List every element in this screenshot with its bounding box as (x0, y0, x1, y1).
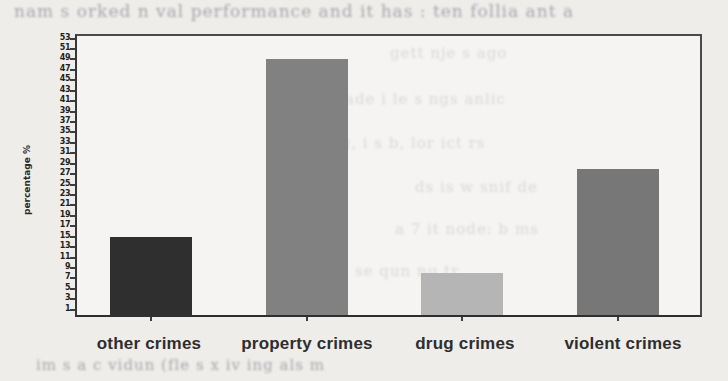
y-tick-mark (70, 298, 75, 300)
x-tick-mark (617, 317, 619, 321)
y-tick-mark (70, 111, 75, 113)
y-tick-mark (70, 163, 75, 165)
y-tick-mark (70, 48, 75, 50)
x-tick-mark (150, 317, 152, 321)
y-tick-mark (70, 236, 75, 238)
plot-area (75, 34, 702, 317)
scanned-book-page: nam s orked n val performance and it has… (0, 0, 728, 381)
y-tick-label: 29 (60, 159, 70, 167)
y-tick-label: 25 (60, 180, 70, 188)
y-tick-mark (70, 38, 75, 40)
y-tick-mark (70, 79, 75, 81)
y-tick-mark (70, 215, 75, 217)
y-tick-label: 21 (60, 200, 70, 208)
y-tick-label: 43 (60, 86, 70, 94)
y-tick-mark (70, 184, 75, 186)
x-category-label: property crimes (228, 334, 386, 360)
y-tick-label: 13 (60, 242, 70, 250)
x-category-label: violent crimes (544, 334, 702, 360)
y-tick-label: 51 (60, 44, 70, 52)
y-tick-mark (70, 267, 75, 269)
y-tick-label: 35 (60, 127, 70, 135)
y-tick-label: 33 (60, 138, 70, 146)
y-tick-label: 45 (60, 75, 70, 83)
x-tick-mark (461, 317, 463, 321)
y-tick-label: 41 (60, 96, 70, 104)
y-tick-label: 47 (60, 65, 70, 73)
y-tick-label: 49 (60, 54, 70, 62)
x-axis-category-labels: other crimesproperty crimesdrug crimesvi… (70, 334, 702, 360)
y-tick-mark (70, 257, 75, 259)
y-tick-label: 37 (60, 117, 70, 125)
y-tick-mark (70, 225, 75, 227)
y-tick-mark (70, 194, 75, 196)
y-tick-label: 11 (60, 253, 70, 261)
y-axis-tick-labels: 1357911131517192123252729313335373941434… (38, 34, 72, 317)
bar-drug-crimes (421, 273, 503, 315)
y-tick-mark (70, 121, 75, 123)
x-category-label: other crimes (70, 334, 228, 360)
y-tick-mark (70, 173, 75, 175)
y-tick-label: 27 (60, 169, 70, 177)
y-tick-mark (70, 309, 75, 311)
y-tick-mark (70, 58, 75, 60)
y-tick-mark (70, 246, 75, 248)
y-tick-mark (70, 69, 75, 71)
y-tick-label: 31 (60, 148, 70, 156)
y-tick-label: 15 (60, 232, 70, 240)
y-tick-mark (70, 90, 75, 92)
bar-property-crimes (266, 59, 348, 315)
bar-violent-crimes (577, 169, 659, 315)
y-tick-mark (70, 142, 75, 144)
y-tick-label: 23 (60, 190, 70, 198)
y-tick-label: 19 (60, 211, 70, 219)
y-tick-mark (70, 288, 75, 290)
y-tick-mark (70, 131, 75, 133)
y-tick-label: 17 (60, 221, 70, 229)
x-tick-mark (306, 317, 308, 321)
y-tick-mark (70, 204, 75, 206)
y-tick-label: 39 (60, 107, 70, 115)
bleed-text: nam s orked n val performance and it has… (14, 1, 574, 21)
y-tick-mark (70, 100, 75, 102)
y-tick-mark (70, 277, 75, 279)
y-axis-title: percentage % (22, 130, 32, 230)
x-category-label: drug crimes (386, 334, 544, 360)
y-tick-mark (70, 152, 75, 154)
y-tick-label: 53 (60, 34, 70, 42)
bar-other-crimes (110, 237, 192, 315)
